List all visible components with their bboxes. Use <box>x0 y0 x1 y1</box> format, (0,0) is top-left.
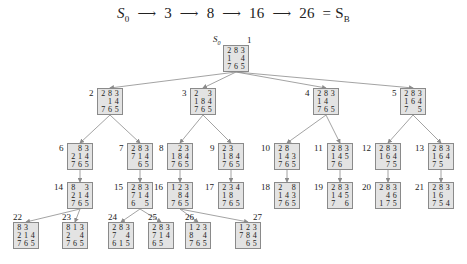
tile: 7 <box>221 161 228 169</box>
tile: 7 <box>238 232 245 240</box>
node-number-label: 5 <box>392 89 397 98</box>
tile: 1 <box>378 153 385 161</box>
tile: 1 <box>72 224 79 232</box>
puzzle-state-node: 28314765 <box>97 88 123 115</box>
tile: 5 <box>143 161 150 169</box>
tile: 2 <box>378 184 385 192</box>
node-number-label: 24 <box>108 213 117 222</box>
puzzle-state-node: 28316475 <box>375 143 401 170</box>
tile <box>238 240 245 248</box>
tile: 4 <box>337 192 344 200</box>
tile: 8 <box>118 224 125 232</box>
tree-edge <box>26 209 80 222</box>
node-number-label: 3 <box>182 89 187 98</box>
puzzle-state-node: 28314765 <box>223 45 249 72</box>
tile: 6 <box>337 161 344 169</box>
tile: 6 <box>410 98 417 106</box>
tile: 7 <box>431 200 438 208</box>
puzzle-state-node: 23184765 <box>167 143 193 170</box>
root-label: S0 <box>213 35 221 48</box>
tile: 5 <box>391 200 398 208</box>
tile: 7 <box>221 200 228 208</box>
tile: 4 <box>444 153 451 161</box>
tile <box>164 240 171 248</box>
tile: 5 <box>239 63 246 71</box>
tile: 7 <box>330 161 337 169</box>
tile: 1 <box>378 200 385 208</box>
tile: 6 <box>200 106 207 114</box>
tree-edge <box>80 115 110 143</box>
tile: 6 <box>130 200 137 208</box>
puzzle-state-node: 28371465 <box>148 222 174 249</box>
tile: 5 <box>416 106 423 114</box>
tile <box>410 106 417 114</box>
node-number-label: 13 <box>415 144 424 153</box>
tile: 5 <box>183 200 190 208</box>
tree-edge <box>75 209 80 222</box>
tile: 7 <box>130 153 137 161</box>
tile: 5 <box>251 240 258 248</box>
tile <box>337 200 344 208</box>
node-number-label: 1 <box>247 36 252 45</box>
node-number-label: 16 <box>154 183 163 192</box>
node-number-label: 22 <box>13 213 22 222</box>
tile: 6 <box>195 240 202 248</box>
tile: 7 <box>277 200 284 208</box>
puzzle-state-node: 12378465 <box>235 222 261 249</box>
tile: 8 <box>233 47 240 55</box>
tile: 7 <box>16 240 23 248</box>
puzzle-state-node: 28314576 <box>327 182 353 209</box>
tile: 6 <box>284 161 291 169</box>
node-number-label: 19 <box>314 183 323 192</box>
tile: 5 <box>234 161 241 169</box>
tile: 5 <box>143 200 150 208</box>
puzzle-state-node: 81324765 <box>62 222 88 249</box>
tile <box>444 161 451 169</box>
tile: 6 <box>77 161 84 169</box>
puzzle-state-node: 23184765 <box>218 143 244 170</box>
tile: 3 <box>329 90 336 98</box>
search-tree-figure: S0 ⟶ 3 ⟶ 8 ⟶ 16 ⟶ 26 = SB 28314765128314… <box>0 0 467 264</box>
tile: 7 <box>170 200 177 208</box>
tile <box>137 200 144 208</box>
node-number-label: 17 <box>205 183 214 192</box>
node-number-label: 9 <box>210 144 215 153</box>
puzzle-state-node: 28316754 <box>428 182 454 209</box>
tile: 7 <box>170 161 177 169</box>
tile: 4 <box>234 184 241 192</box>
node-number-label: 21 <box>415 183 424 192</box>
tile: 6 <box>151 240 158 248</box>
tile: 6 <box>137 161 144 169</box>
tree-edge <box>180 115 203 143</box>
tile: 5 <box>83 161 90 169</box>
puzzle-state-node: 23184765 <box>190 88 216 115</box>
tile: 6 <box>23 240 30 248</box>
puzzle-state-node: 83214765 <box>67 143 93 170</box>
tile: 6 <box>245 240 252 248</box>
tile: 7 <box>193 106 200 114</box>
tile <box>378 161 385 169</box>
tile: 7 <box>277 161 284 169</box>
tile: 5 <box>343 153 350 161</box>
tile: 7 <box>385 161 392 169</box>
puzzle-state-node: 28143765 <box>274 182 300 209</box>
tile: 7 <box>316 106 323 114</box>
node-number-label: 20 <box>362 183 371 192</box>
tile: 5 <box>290 161 297 169</box>
node-number-label: 4 <box>305 89 310 98</box>
node-number-label: 23 <box>62 213 71 222</box>
tile <box>130 161 137 169</box>
tile: 5 <box>290 200 297 208</box>
tile: 6 <box>228 161 235 169</box>
node-number-label: 11 <box>314 144 323 153</box>
node-number-label: 8 <box>159 144 164 153</box>
node-number-label: 12 <box>362 144 371 153</box>
tile: 1 <box>137 192 144 200</box>
tile: 5 <box>438 161 445 169</box>
tree-edge <box>121 209 140 222</box>
tree-edge <box>236 72 413 88</box>
tile: 7 <box>385 200 392 208</box>
puzzle-state-node: 83214765 <box>67 182 93 209</box>
node-number-label: 10 <box>261 144 270 153</box>
tile: 4 <box>164 232 171 240</box>
